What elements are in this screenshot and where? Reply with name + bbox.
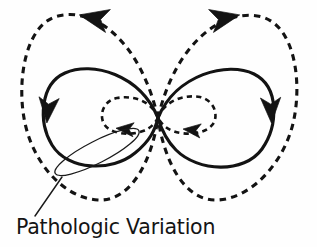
arrow-outer-left-top-icon xyxy=(79,10,110,33)
arrow-solid-right-side-icon xyxy=(260,97,280,123)
pathologic-variation-leader-line xyxy=(35,177,62,216)
arrow-inner-right-loop-icon xyxy=(183,124,201,138)
figure-eight-diagram xyxy=(0,0,317,247)
pathologic-variation-figure: Pathologic Variation xyxy=(0,0,317,247)
solid-left-lobe xyxy=(43,69,158,166)
pathologic-variation-caption: Pathologic Variation xyxy=(16,217,215,238)
arrow-outer-right-top-icon xyxy=(209,10,240,33)
